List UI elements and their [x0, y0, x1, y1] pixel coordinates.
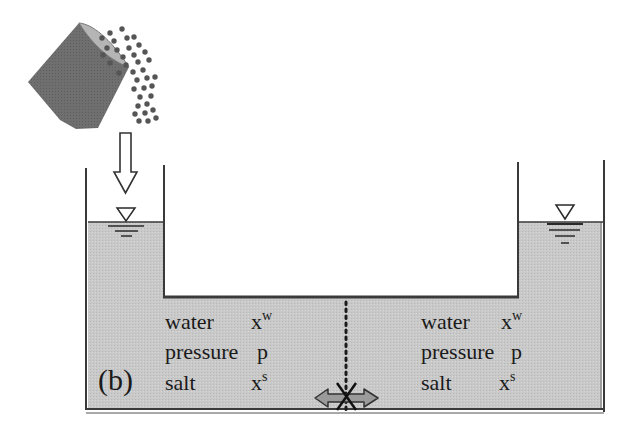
left-salt-label: salt: [165, 370, 196, 395]
right-pressure-symbol: p: [511, 339, 522, 364]
left-pressure-symbol: p: [257, 339, 268, 364]
left-water-label: water: [165, 309, 215, 334]
right-water-label: water: [421, 309, 471, 334]
right-salt-label: salt: [421, 370, 452, 395]
panel-label: (b): [98, 363, 133, 397]
left-pressure-label: pressure: [165, 339, 238, 364]
pour-down-arrow-icon: [114, 133, 137, 193]
osmosis-diagram: water xw pressure p salt xs (b) water xw…: [0, 0, 640, 435]
right-pressure-label: pressure: [421, 339, 494, 364]
